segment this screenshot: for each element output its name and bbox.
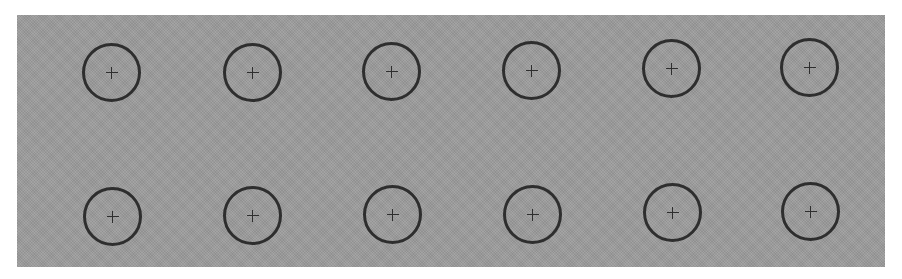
add-target-button[interactable] [780,38,839,97]
add-target-button[interactable] [362,42,421,101]
add-target-button[interactable] [502,41,561,100]
plus-icon [805,206,817,218]
add-target-button[interactable] [642,39,701,98]
plus-icon [387,209,399,221]
plus-icon [804,62,816,74]
add-target-button[interactable] [503,185,562,244]
add-target-button[interactable] [781,182,840,241]
plus-icon [106,67,118,79]
plus-icon [247,210,259,222]
plus-icon [527,209,539,221]
add-target-button[interactable] [223,186,282,245]
plus-icon [666,63,678,75]
target-grid-panel [17,15,885,267]
plus-icon [386,66,398,78]
add-target-button[interactable] [643,183,702,242]
plus-icon [667,207,679,219]
add-target-button[interactable] [363,185,422,244]
plus-icon [247,67,259,79]
add-target-button[interactable] [83,187,142,246]
plus-icon [526,65,538,77]
add-target-button[interactable] [223,43,282,102]
add-target-button[interactable] [82,43,141,102]
plus-icon [107,211,119,223]
